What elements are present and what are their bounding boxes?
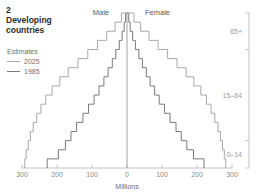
series-outline-2025	[25, 13, 226, 168]
svg-text:200: 200	[191, 171, 203, 178]
svg-text:0–14: 0–14	[226, 151, 242, 158]
svg-text:0: 0	[125, 171, 129, 178]
chart-canvas: 2 Developing countries Estimates 2025 19…	[0, 0, 262, 194]
svg-text:Millions: Millions	[115, 183, 139, 190]
svg-text:15–64: 15–64	[223, 92, 243, 99]
svg-text:65+: 65+	[230, 28, 242, 35]
population-pyramid-plot: 3002001000100200300 65+15–640–14 MaleFem…	[0, 0, 262, 194]
svg-text:100: 100	[86, 171, 98, 178]
series-outline-1985	[47, 13, 204, 168]
svg-text:300: 300	[16, 171, 28, 178]
x-axis-title: Millions	[115, 183, 139, 190]
age-bracket-axis	[245, 13, 249, 168]
svg-text:100: 100	[156, 171, 168, 178]
svg-text:Female: Female	[145, 8, 170, 17]
svg-text:200: 200	[51, 171, 63, 178]
age-bracket-labels: 65+15–640–14	[223, 28, 243, 158]
x-axis-ticklabels: 3002001000100200300	[16, 171, 238, 178]
svg-text:300: 300	[226, 171, 238, 178]
svg-text:Male: Male	[93, 8, 109, 17]
